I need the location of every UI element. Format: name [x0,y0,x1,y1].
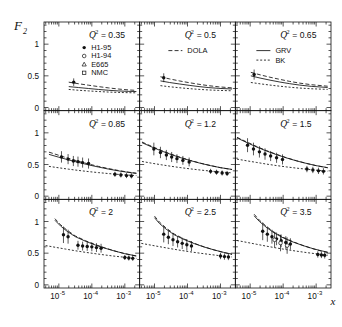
panel-label-value: = 0.85 [101,119,125,129]
y-tick-label: 1 [34,40,39,49]
curve-grv [142,143,232,170]
legend-label: GRV [275,46,291,55]
data-point-h1-95 [190,244,193,247]
panel-label-superscript: 2 [286,117,289,124]
data-point-h1-95 [305,167,308,170]
data-point-h1-95 [323,254,326,257]
data-point-h1-95 [270,235,273,238]
x-tick-exponent: -3 [126,290,132,296]
panel-label-value: = 2 [101,207,113,217]
data-point-h1-95 [90,245,93,248]
data-point-h1-95 [316,253,319,256]
data-point-h1-95 [320,253,323,256]
x-tick-label: 10 [275,292,285,301]
data-point-h1-95 [215,171,218,174]
panel-label-superscript: 2 [95,205,98,212]
x-tick-exponent: -5 [155,290,161,296]
panel-q2-0.5: Q2= 0.5 [160,28,232,91]
x-tick-label: 10 [212,292,222,301]
data-point-h1-95 [62,233,65,236]
panel-q2-0.85: Q2= 0.85 [49,117,136,179]
data-point-h1-95 [311,168,314,171]
x-tick-exponent: -3 [221,290,227,296]
panel-label-value: = 3.5 [292,207,312,217]
legend-data-sets: H1-95H1-94E665NMC [82,43,111,77]
panel-label-superscript: 2 [191,205,194,212]
y-tick-label: 0 [34,104,39,113]
data-point-h1-95 [223,255,226,258]
data-point-h1-95 [86,245,89,248]
data-point-h1-94 [273,238,277,242]
data-point-h1-95 [130,174,133,177]
data-point-h1-95 [181,159,184,162]
data-point-h1-95 [76,244,79,247]
data-point-h1-95 [81,244,84,247]
x-tick-label: 10 [242,292,252,301]
x-tick-label: 10 [146,292,156,301]
legend-marker-e665 [82,62,86,66]
curve-grv [155,218,233,254]
data-point-h1-95 [72,159,75,162]
data-point-h1-95 [162,76,165,79]
panel-label-value: = 1.2 [197,119,217,129]
data-point-h1-95 [170,155,173,158]
data-point-h1-95 [60,155,63,158]
data-point-h1-95 [125,174,128,177]
panel-q2-3.5: Q2= 3.5 [237,205,328,258]
data-point-h1-94 [285,244,289,248]
panel-label-superscript: 2 [191,28,194,35]
panel-label-superscript: 2 [286,28,289,35]
legend-models: GRVBK [256,46,291,65]
legend-marker-h1-95 [82,46,85,49]
data-point-h1-95 [152,147,155,150]
legend-label: NMC [91,68,108,77]
y-tick-label: 1 [34,129,39,138]
data-point-h1-95 [225,172,228,175]
data-point-h1-95 [159,151,162,154]
f2-structure-function-figure: 00.5100.5100.5110-510-410-310-510-410-31… [0,0,342,327]
data-point-h1-95 [95,246,98,249]
legend-dola: DOLA [168,46,207,55]
data-point-h1-95 [220,171,223,174]
data-point-h1-95 [165,153,168,156]
data-point-h1-95 [99,247,102,250]
legend-label: BK [275,56,285,65]
x-tick-exponent: -5 [251,290,257,296]
data-point-h1-95 [258,150,261,153]
data-point-h1-95 [269,154,272,157]
data-point-h1-95 [252,73,255,76]
data-point-h1-95 [72,80,75,83]
curve-grv [254,216,328,252]
curve-dola [142,142,232,170]
y-axis-label-subscript: 2 [23,27,27,36]
x-tick-label: 10 [308,292,318,301]
x-tick-exponent: -4 [93,290,99,296]
data-point-h1-95 [127,256,130,259]
data-point-h1-95 [81,161,84,164]
panel-label-value: = 0.5 [197,30,217,40]
x-tick-exponent: -4 [284,290,290,296]
panel-q2-0.65: Q2= 0.65 [251,28,328,89]
data-point-h1-95 [317,169,320,172]
data-point-h1-95 [76,160,79,163]
legend-marker-h1-94 [82,54,86,58]
panel-label-value: = 1.5 [292,119,312,129]
data-point-h1-95 [123,256,126,259]
data-point-h1-95 [176,240,179,243]
panel-q2-2.5: Q2= 2.5 [141,205,232,260]
data-point-h1-95 [275,156,278,159]
y-tick-label: 0.5 [28,72,40,81]
y-axis-label: F [13,18,23,33]
y-tick-label: 0 [34,281,39,290]
data-point-h1-95 [131,257,134,260]
data-point-h1-95 [167,236,170,239]
curve-dola [155,216,233,254]
panel-label-superscript: 2 [286,205,289,212]
y-tick-label: 1 [34,218,39,227]
curve-dola [69,82,137,90]
data-point-h1-95 [246,143,249,146]
legend-label: DOLA [187,46,207,55]
panel-label-value: = 0.35 [101,30,125,40]
curve-dola [254,214,328,252]
x-tick-label: 10 [50,292,60,301]
